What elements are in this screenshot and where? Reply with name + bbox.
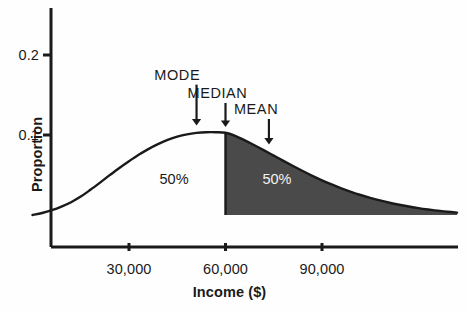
annotation-label-median: MEDIAN bbox=[187, 86, 247, 101]
x-axis-tick-label: 30,000 bbox=[107, 262, 152, 277]
income-distribution-chart: 0.2 0.1 Proportion 30,000 60,000 90,000 … bbox=[0, 0, 468, 312]
x-axis-tick-label: 60,000 bbox=[203, 262, 248, 277]
y-axis-title: Proportion bbox=[30, 117, 45, 192]
annotation-label-mean: MEAN bbox=[234, 102, 278, 117]
region-label-left-half: 50% bbox=[160, 172, 189, 187]
x-axis-tick-label: 90,000 bbox=[300, 262, 345, 277]
upper-half-shaded-area bbox=[226, 133, 458, 215]
shaded-area-group bbox=[226, 133, 458, 215]
x-axis-title: Income ($) bbox=[193, 285, 267, 300]
annotation-label-mode: MODE bbox=[154, 68, 200, 83]
region-label-right-half: 50% bbox=[262, 172, 291, 187]
y-axis-tick-label: 0.2 bbox=[19, 48, 39, 63]
